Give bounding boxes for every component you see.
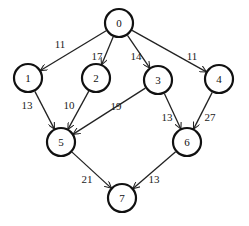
edge-weight-5-to-7: 21 — [82, 173, 93, 185]
edge-weight-3-to-5: 19 — [111, 100, 123, 112]
node-3-label: 3 — [155, 74, 161, 86]
node-1-label: 1 — [25, 72, 31, 84]
edge-weight-0-to-1: 11 — [55, 38, 66, 50]
edge-weight-0-to-3: 14 — [131, 50, 143, 62]
node-7: 7 — [108, 184, 136, 212]
node-4-label: 4 — [216, 73, 222, 85]
edge-weight-0-to-4: 11 — [187, 50, 198, 62]
edge-weight-3-to-6: 13 — [162, 111, 174, 123]
node-2-label: 2 — [93, 72, 99, 84]
node-0: 0 — [105, 9, 133, 37]
node-4: 4 — [205, 65, 233, 93]
node-3: 3 — [144, 66, 172, 94]
node-7-label: 7 — [119, 192, 125, 204]
node-5: 5 — [47, 128, 75, 156]
weighted-directed-graph: 1117141113101913272113 01234567 — [0, 0, 249, 226]
edge-weight-6-to-7: 13 — [149, 173, 161, 185]
node-0-label: 0 — [116, 17, 122, 29]
edge-weight-0-to-2: 17 — [92, 50, 104, 62]
edge-weight-1-to-5: 13 — [22, 99, 34, 111]
edge-weight-2-to-5: 10 — [64, 99, 76, 111]
edge-0-to-2 — [102, 37, 113, 64]
edge-weight-4-to-6: 27 — [205, 111, 217, 123]
edge-3-to-5 — [74, 88, 146, 134]
node-1: 1 — [14, 64, 42, 92]
node-6-label: 6 — [184, 136, 190, 148]
node-6: 6 — [173, 128, 201, 156]
edge-1-to-5 — [35, 91, 54, 128]
node-5-label: 5 — [58, 136, 64, 148]
node-2: 2 — [82, 64, 110, 92]
